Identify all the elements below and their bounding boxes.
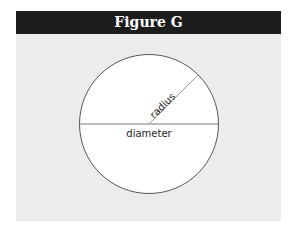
circle-diagram: radius diameter (0, 0, 295, 236)
diameter-label: diameter (126, 128, 172, 139)
